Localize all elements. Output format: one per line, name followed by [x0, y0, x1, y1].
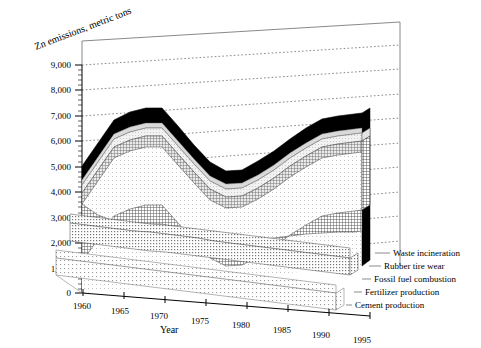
legend-item-waste-incineration: Waste incineration: [393, 248, 460, 258]
legend-item-fertilizer-production: Fertilizer production: [365, 287, 440, 297]
y-tick-label: 9,000: [51, 60, 72, 70]
y-tick-label: 0: [67, 288, 72, 298]
x-tick-label: 1985: [273, 325, 292, 335]
series-fossil-fuel-combustion-endcap: [362, 136, 370, 210]
legend-item-rubber-tire-wear: Rubber tire wear: [384, 261, 444, 271]
chart-3d-stacked-area: 9,000 8,000 7,000 6,000 5,000 4,000 3,00…: [0, 0, 481, 348]
legend-item-cement-production: Cement production: [355, 300, 425, 310]
chart-canvas: 9,000 8,000 7,000 6,000 5,000 4,000 3,00…: [0, 0, 481, 348]
x-tick-label: 1995: [353, 335, 372, 345]
x-tick-label: 1980: [232, 320, 251, 330]
x-tick-label: 1965: [111, 306, 130, 316]
x-tick-label: 1960: [73, 301, 92, 311]
y-tick-label: 8,000: [51, 85, 72, 95]
x-tick-label: 1990: [312, 330, 331, 340]
y-tick-label: 5,000: [51, 162, 72, 172]
x-tick-label: 1970: [150, 311, 169, 321]
legend-item-fossil-fuel-combustion: Fossil fuel combustion: [374, 274, 457, 284]
y-tick-label: 2,000: [51, 238, 72, 248]
y-tick-label: 6,000: [51, 136, 72, 146]
x-tick-label: 1975: [191, 316, 210, 326]
y-tick-label: 7,000: [51, 111, 72, 121]
y-tick-label: 4,000: [51, 187, 72, 197]
y-tick-label: 3,000: [51, 213, 72, 223]
x-axis-title: Year: [160, 324, 179, 335]
